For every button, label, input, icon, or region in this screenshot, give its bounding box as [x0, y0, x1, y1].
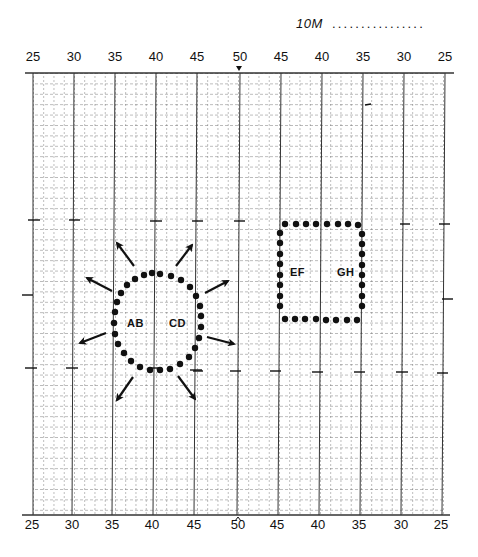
- circle-label-ab: AB: [127, 317, 144, 329]
- center-marker-bottom-icon: [235, 517, 241, 521]
- center-marker-top-icon: [236, 66, 242, 71]
- circle-label-cd: CD: [169, 317, 186, 329]
- square-label-ef: EF: [290, 266, 305, 278]
- grid-diagram: [0, 0, 478, 557]
- square-label-gh: GH: [337, 266, 355, 278]
